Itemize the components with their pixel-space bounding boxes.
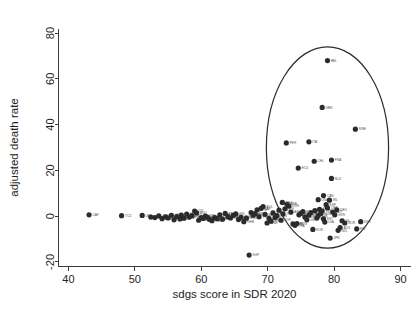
y-tick-label: 80 <box>45 27 57 39</box>
data-point <box>140 213 145 218</box>
data-point-label: DEU <box>340 208 347 212</box>
data-point-label: SVN <box>338 213 345 217</box>
data-point-label: FRA <box>335 158 342 162</box>
x-axis-title: sdgs score in SDR 2020 <box>172 288 296 300</box>
data-point <box>310 227 315 232</box>
data-point-label: SGP <box>253 253 260 257</box>
data-point <box>327 198 332 203</box>
data-point <box>294 221 299 226</box>
data-point <box>276 208 281 213</box>
data-point <box>321 193 326 198</box>
data-point <box>338 225 343 230</box>
data-point <box>328 236 333 241</box>
data-point-label: LVA <box>328 220 334 224</box>
y-tick-label: -20 <box>45 254 57 270</box>
x-tick-label: 40 <box>62 273 74 285</box>
data-point-label: BOL <box>266 205 273 209</box>
data-point-label: CAF <box>92 213 98 217</box>
data-point-label: CAN <box>327 194 334 198</box>
data-point <box>260 204 265 209</box>
data-point <box>169 213 174 218</box>
data-point <box>239 215 244 220</box>
data-point <box>278 218 283 223</box>
data-point-label: KOR <box>316 228 324 232</box>
data-point <box>306 139 311 144</box>
chart-canvas: -20020406080405060708090sdgs score in SD… <box>0 0 418 313</box>
data-point <box>247 252 252 257</box>
data-point-label: JPN <box>334 236 340 240</box>
x-tick-label: 80 <box>328 273 340 285</box>
data-point-label: JOR <box>284 218 291 222</box>
data-point <box>256 214 261 219</box>
data-point-label: DNK <box>364 220 372 224</box>
data-point <box>280 211 285 216</box>
data-point-label: ECU <box>302 166 309 170</box>
data-point-label: KHM <box>247 220 254 224</box>
y-tick-label: 20 <box>45 164 57 176</box>
data-point <box>233 211 238 216</box>
data-point-label: ITA <box>312 140 318 144</box>
y-axis-title: adjusted death rate <box>8 98 20 196</box>
data-point <box>320 105 325 110</box>
data-point <box>217 212 222 217</box>
data-point-label: GBR <box>326 106 334 110</box>
scatter-plot-figure: -20020406080405060708090sdgs score in SD… <box>0 0 418 313</box>
data-point-label: CHL <box>318 159 325 163</box>
y-tick-label: 40 <box>45 118 57 130</box>
data-point <box>329 176 334 181</box>
data-point-label: RUS <box>292 204 299 208</box>
data-point <box>334 207 339 212</box>
x-tick-label: 70 <box>262 273 274 285</box>
data-point <box>325 58 330 63</box>
x-tick-label: 90 <box>394 273 406 285</box>
data-point <box>244 216 249 221</box>
data-point <box>286 203 291 208</box>
data-point <box>332 212 337 217</box>
data-point <box>194 210 199 215</box>
data-point-label: TCD <box>125 214 132 218</box>
top-edge-artifact <box>0 0 418 10</box>
data-point-label: AUS <box>344 226 351 230</box>
data-point-label: SWE <box>359 127 366 131</box>
data-point <box>312 159 317 164</box>
data-point <box>358 219 363 224</box>
data-point <box>268 219 273 224</box>
data-point <box>220 217 225 222</box>
data-point <box>274 213 279 218</box>
data-point <box>280 200 285 205</box>
data-point <box>353 127 358 132</box>
data-point <box>322 220 327 225</box>
data-point-label: BEL <box>331 59 337 63</box>
data-point <box>354 226 359 231</box>
data-point <box>284 140 289 145</box>
data-point <box>262 212 267 217</box>
data-point-label: NOR <box>348 221 356 225</box>
data-point <box>300 209 305 214</box>
data-point-label: FIN <box>360 227 365 231</box>
data-point <box>312 208 317 213</box>
data-point-label: NLD <box>335 177 342 181</box>
data-point <box>304 217 309 222</box>
y-tick-label: 0 <box>45 213 57 219</box>
data-point <box>320 209 325 214</box>
data-point <box>316 197 321 202</box>
data-point <box>288 209 293 214</box>
data-point-label: IRL <box>333 198 338 202</box>
data-point <box>329 157 334 162</box>
x-tick-label: 50 <box>129 273 141 285</box>
x-tick-label: 60 <box>195 273 207 285</box>
data-point <box>189 213 194 218</box>
data-point <box>296 165 301 170</box>
data-point <box>325 205 330 210</box>
data-point <box>86 212 91 217</box>
data-point <box>342 220 347 225</box>
data-point-label: PER <box>290 141 297 145</box>
data-point <box>119 213 124 218</box>
y-tick-label: 60 <box>45 73 57 85</box>
